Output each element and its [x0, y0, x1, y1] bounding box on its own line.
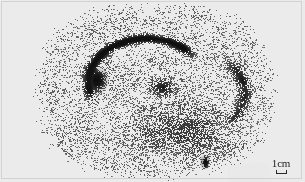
- scale-bar: 1cm: [264, 158, 298, 174]
- scintigram-figure: 1cm: [0, 0, 305, 182]
- scintigram-image: [0, 0, 305, 182]
- scale-bar-label: 1cm: [264, 158, 298, 169]
- scale-bar-bracket: [276, 170, 287, 174]
